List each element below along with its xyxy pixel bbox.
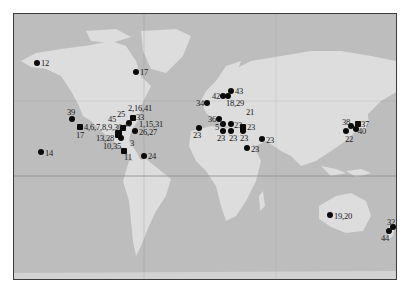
site-label: 19,20: [334, 212, 352, 221]
site-label: 21: [246, 108, 254, 117]
site-label: 3: [130, 139, 134, 148]
site-label: 23: [193, 131, 201, 140]
site-label: 24: [148, 152, 156, 161]
site-label: 23: [217, 134, 225, 143]
site-label: 17: [76, 131, 84, 140]
site-marker[interactable]: [141, 153, 147, 159]
site-label: 23: [240, 134, 248, 143]
site-label: 38: [342, 118, 350, 127]
site-label: 17: [140, 68, 148, 77]
site-label: 45: [108, 115, 116, 124]
site-marker[interactable]: [132, 128, 138, 134]
site-marker[interactable]: [327, 212, 333, 218]
site-marker[interactable]: [244, 145, 250, 151]
site-marker[interactable]: [38, 149, 44, 155]
site-label: 23: [251, 145, 259, 154]
site-label: 18,29: [226, 99, 244, 108]
site-label: 5: [215, 123, 219, 132]
site-label: 10,35: [103, 142, 121, 151]
site-label: 22: [345, 135, 353, 144]
site-label: 34: [196, 99, 204, 108]
site-label: 32: [387, 218, 395, 227]
site-label: 23: [247, 123, 255, 132]
site-label: 26,27: [139, 128, 157, 137]
site-label: 12: [41, 59, 49, 68]
site-marker[interactable]: [204, 100, 210, 106]
world-map: [13, 13, 397, 280]
site-label: 42: [212, 92, 220, 101]
site-marker[interactable]: [228, 88, 234, 94]
site-label: 44: [381, 234, 389, 243]
site-label: 40: [358, 127, 366, 136]
site-marker[interactable]: [120, 125, 126, 131]
site-label: 23: [229, 134, 237, 143]
site-marker[interactable]: [259, 136, 265, 142]
site-label: 43: [235, 87, 243, 96]
world-map-graphic: [14, 14, 397, 280]
site-label: 23: [266, 136, 274, 145]
site-marker[interactable]: [220, 121, 226, 127]
site-marker[interactable]: [34, 60, 40, 66]
site-label: 25: [117, 110, 125, 119]
site-label: 14: [45, 149, 53, 158]
site-label: 11: [124, 153, 132, 162]
site-marker[interactable]: [133, 69, 139, 75]
site-label: 39: [67, 108, 75, 117]
